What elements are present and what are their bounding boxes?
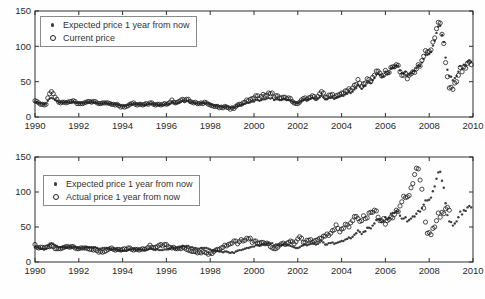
svg-text:1996: 1996 <box>156 120 177 131</box>
figure: 1990199219941996199820002002200420062008… <box>0 0 485 299</box>
svg-text:2002: 2002 <box>287 120 308 131</box>
svg-text:2010: 2010 <box>462 120 483 131</box>
svg-text:1998: 1998 <box>200 265 221 276</box>
open-circle-marker-icon <box>46 35 59 41</box>
svg-text:0: 0 <box>26 256 31 267</box>
legend-entry-expected: Expected price 1 year from now <box>46 19 190 31</box>
dot-marker-icon <box>49 182 62 186</box>
svg-text:150: 150 <box>15 5 31 16</box>
legend-label-current: Current price <box>63 33 115 44</box>
legend-entry-expected: Expected price 1 year from now <box>49 178 193 190</box>
svg-text:1994: 1994 <box>112 265 133 276</box>
svg-text:2000: 2000 <box>243 265 264 276</box>
svg-text:50: 50 <box>20 221 31 232</box>
legend-entry-current: Current price <box>46 32 190 44</box>
top-chart-legend: Expected price 1 year from now Current p… <box>40 16 197 47</box>
svg-text:2002: 2002 <box>287 265 308 276</box>
svg-text:2006: 2006 <box>375 120 396 131</box>
svg-text:2004: 2004 <box>331 120 352 131</box>
legend-label-expected: Expected price 1 year from now <box>66 179 193 190</box>
bottom-chart-legend: Expected price 1 year from now Actual pr… <box>43 175 200 206</box>
svg-text:100: 100 <box>15 186 31 197</box>
svg-text:2004: 2004 <box>331 265 352 276</box>
svg-text:1998: 1998 <box>200 120 221 131</box>
svg-text:2006: 2006 <box>375 265 396 276</box>
svg-text:150: 150 <box>15 151 31 162</box>
svg-text:2008: 2008 <box>419 265 440 276</box>
legend-label-actual: Actual price 1 year from now <box>66 192 180 203</box>
legend-entry-actual: Actual price 1 year from now <box>49 191 193 203</box>
svg-text:2000: 2000 <box>243 120 264 131</box>
svg-text:1992: 1992 <box>68 120 89 131</box>
svg-text:1996: 1996 <box>156 265 177 276</box>
svg-text:1994: 1994 <box>112 120 133 131</box>
top-chart: 1990199219941996199820002002200420062008… <box>0 0 485 149</box>
bottom-chart: 1990199219941996199820002002200420062008… <box>0 149 485 299</box>
svg-text:2010: 2010 <box>462 265 483 276</box>
legend-label-expected: Expected price 1 year from now <box>63 20 190 31</box>
svg-text:100: 100 <box>15 41 31 52</box>
open-circle-marker-icon <box>49 194 62 200</box>
svg-text:0: 0 <box>26 111 31 122</box>
bottom-chart-plot: 1990199219941996199820002002200420062008… <box>0 149 485 299</box>
svg-text:2008: 2008 <box>419 120 440 131</box>
dot-marker-icon <box>46 23 59 27</box>
svg-text:1992: 1992 <box>68 265 89 276</box>
svg-text:50: 50 <box>20 76 31 87</box>
